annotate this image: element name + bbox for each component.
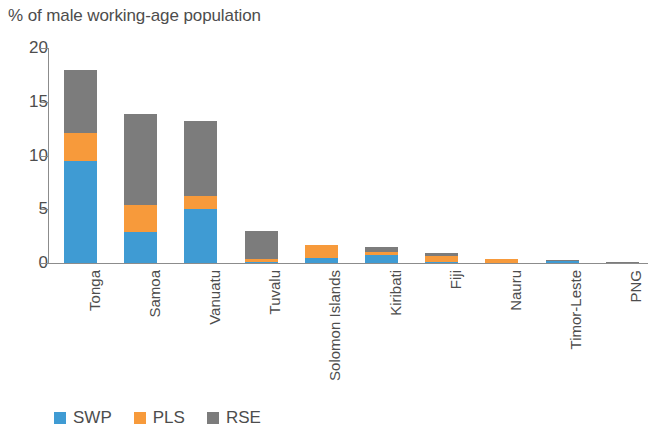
legend-label: SWP xyxy=(73,409,112,426)
chart-legend: SWPPLSRSE xyxy=(54,409,261,426)
x-axis-label: Nauru xyxy=(508,270,523,400)
legend-item: SWP xyxy=(54,409,112,426)
stacked-bar xyxy=(425,253,458,263)
y-tick-mark xyxy=(40,48,48,49)
legend-item: PLS xyxy=(134,409,185,426)
bar-column xyxy=(305,0,338,280)
stacked-bar xyxy=(606,262,639,263)
x-axis-label: Samoa xyxy=(147,270,162,400)
bar-segment-swp xyxy=(425,262,458,263)
bar-column xyxy=(485,0,518,280)
x-axis-label: Tonga xyxy=(87,270,102,400)
stacked-bar xyxy=(124,114,157,263)
bar-column xyxy=(606,0,639,280)
legend-swatch-icon xyxy=(54,412,66,424)
y-tick-mark xyxy=(40,102,48,103)
bar-segment-swp xyxy=(64,161,97,263)
stacked-bar xyxy=(64,70,97,263)
legend-swatch-icon xyxy=(134,412,146,424)
legend-swatch-icon xyxy=(207,412,219,424)
x-axis-label: Fiji xyxy=(448,270,463,400)
bar-column xyxy=(64,0,97,280)
bar-segment-rse xyxy=(124,114,157,205)
bar-segment-pls xyxy=(124,205,157,232)
bar-segment-swp xyxy=(124,232,157,263)
bar-segment-rse xyxy=(184,121,217,196)
bar-column xyxy=(425,0,458,280)
x-axis-label: Kiribati xyxy=(388,270,403,400)
bar-segment-pls xyxy=(64,133,97,161)
x-axis-label: Tuvalu xyxy=(267,270,282,400)
bar-chart: % of male working-age population 0510152… xyxy=(0,0,655,434)
bar-segment-swp xyxy=(245,262,278,263)
x-axis-label: Vanuatu xyxy=(207,270,222,400)
bar-segment-pls xyxy=(184,196,217,209)
bar-segment-rse xyxy=(64,70,97,133)
bar-segment-pls xyxy=(485,259,518,263)
bar-segment-rse xyxy=(606,262,639,263)
bar-column xyxy=(365,0,398,280)
y-tick-mark xyxy=(40,209,48,210)
bar-segment-pls xyxy=(305,245,338,258)
legend-label: RSE xyxy=(226,409,261,426)
bar-segment-rse xyxy=(245,231,278,259)
x-axis-label: Solomon Islands xyxy=(327,270,342,400)
bar-column xyxy=(546,0,579,280)
stacked-bar xyxy=(546,260,579,263)
y-tick-mark xyxy=(40,156,48,157)
stacked-bar xyxy=(245,231,278,263)
bar-segment-swp xyxy=(305,258,338,263)
bar-segment-swp xyxy=(184,209,217,263)
bar-segment-swp xyxy=(365,255,398,263)
legend-item: RSE xyxy=(207,409,261,426)
stacked-bar xyxy=(365,247,398,263)
bar-column xyxy=(245,0,278,280)
bar-column xyxy=(124,0,157,280)
plot-area: 05101520 TongaSamoaVanuatuTuvaluSolomon … xyxy=(0,0,655,280)
x-axis-label: PNG xyxy=(628,270,643,400)
y-axis-line xyxy=(48,48,49,264)
stacked-bar xyxy=(184,121,217,263)
bar-column xyxy=(184,0,217,280)
legend-label: PLS xyxy=(153,409,185,426)
x-axis-label: Timor-Leste xyxy=(568,270,583,400)
y-tick-mark xyxy=(40,263,48,264)
stacked-bar xyxy=(485,259,518,263)
stacked-bar xyxy=(305,245,338,263)
bar-segment-swp xyxy=(546,261,579,263)
